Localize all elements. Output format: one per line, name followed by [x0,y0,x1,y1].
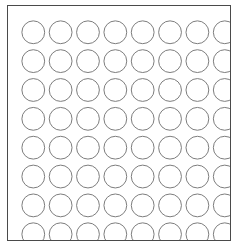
grid-circle [131,165,154,188]
grid-circle [186,194,209,217]
grid-circle [131,194,154,217]
grid-circle [186,165,209,188]
grid-circle [159,79,182,102]
grid-circle [77,194,100,217]
grid-frame [7,5,231,241]
grid-circle [131,50,154,73]
grid-circle [22,107,45,130]
grid-circle [77,79,100,102]
grid-circle [213,136,230,159]
grid-circle [49,136,72,159]
grid-circle [213,50,230,73]
grid-circle [49,165,72,188]
grid-circle [213,165,230,188]
grid-circle [22,50,45,73]
grid-circle [159,107,182,130]
grid-circle [213,21,230,44]
grid-circle [22,79,45,102]
grid-circle [22,165,45,188]
grid-circle [49,194,72,217]
grid-circle [131,107,154,130]
grid-circle [77,21,100,44]
grid-circle [159,223,182,240]
grid-circle [186,79,209,102]
grid-circle [49,79,72,102]
grid-circle [22,223,45,240]
grid-circle [213,194,230,217]
grid-circle [159,136,182,159]
grid-circle [77,165,100,188]
grid-circle [77,107,100,130]
grid-circle [159,50,182,73]
grid-circle [49,223,72,240]
grid-circle [213,223,230,240]
grid-circle [104,50,127,73]
grid-circle [104,223,127,240]
grid-circle [104,79,127,102]
grid-circle [104,165,127,188]
grid-circle [49,107,72,130]
grid-circle [186,50,209,73]
circle-grid-figure [0,0,238,249]
grid-circle [213,107,230,130]
circle-layer [22,21,230,240]
grid-circle [22,21,45,44]
grid-circle [186,21,209,44]
grid-circle [77,136,100,159]
grid-circle [186,136,209,159]
grid-circle [159,165,182,188]
grid-circle [22,194,45,217]
grid-circle [186,223,209,240]
grid-circle [159,194,182,217]
grid-circle [49,21,72,44]
grid-circle [131,21,154,44]
grid-circle [131,223,154,240]
grid-circle [77,223,100,240]
grid-circle [213,79,230,102]
grid-circle [49,50,72,73]
grid-circle [186,107,209,130]
circle-grid [8,6,230,240]
grid-circle [104,136,127,159]
grid-circle [22,136,45,159]
grid-circle [131,136,154,159]
grid-circle [131,79,154,102]
grid-circle [159,21,182,44]
grid-circle [104,21,127,44]
grid-circle [104,107,127,130]
grid-circle [104,194,127,217]
grid-circle [77,50,100,73]
